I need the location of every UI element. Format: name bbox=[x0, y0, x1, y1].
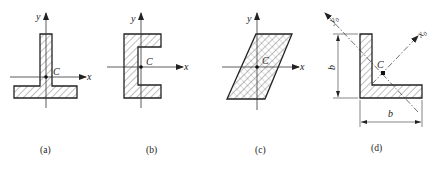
angle-section-shape bbox=[360, 34, 422, 98]
centroid-point bbox=[255, 65, 259, 69]
caption-b: (b) bbox=[146, 145, 157, 156]
centroid-point bbox=[44, 75, 48, 79]
svg-text:x0: x0 bbox=[414, 26, 428, 40]
x0-axis-label-group: x0 bbox=[414, 26, 428, 40]
x-axis-label: x bbox=[86, 71, 92, 82]
caption-c: (c) bbox=[255, 145, 266, 156]
figure-d: C y0 x0 b b (d) bbox=[325, 12, 428, 154]
centroid-point bbox=[139, 65, 143, 69]
figure-a: C x y (a) bbox=[10, 11, 92, 156]
t-section-shape bbox=[14, 34, 77, 98]
parallelogram-shape bbox=[227, 34, 292, 99]
height-dimension-label-group: b bbox=[326, 65, 337, 70]
height-dimension-label: b bbox=[326, 65, 337, 70]
y-axis-label: y bbox=[130, 13, 136, 24]
y0-axis-arrow bbox=[325, 13, 327, 15]
centroid-label: C bbox=[53, 66, 60, 77]
centroid-label: C bbox=[377, 59, 384, 70]
width-dimension-label: b bbox=[388, 108, 393, 119]
centroid-point bbox=[381, 71, 385, 75]
y-axis-label: y bbox=[35, 11, 41, 22]
x0-axis-arrow bbox=[415, 36, 418, 39]
figure-c: C x y (c) bbox=[222, 13, 305, 156]
x-axis-label: x bbox=[183, 61, 189, 72]
svg-text:y0: y0 bbox=[326, 12, 340, 26]
caption-a: (a) bbox=[40, 145, 51, 156]
channel-shape bbox=[124, 34, 161, 98]
y-axis-label: y bbox=[246, 13, 252, 24]
caption-d: (d) bbox=[371, 143, 382, 154]
figure-b: C x y (b) bbox=[107, 13, 189, 156]
diagram-canvas: C x y (a) C x y (b) C x y (c) C y0 bbox=[0, 0, 439, 171]
centroid-label: C bbox=[262, 55, 269, 66]
x-axis-label: x bbox=[299, 61, 305, 72]
y0-axis-label-group: y0 bbox=[326, 12, 340, 26]
centroid-label: C bbox=[146, 56, 153, 67]
